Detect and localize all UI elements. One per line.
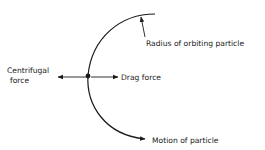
particle-dot bbox=[86, 74, 91, 79]
orbiting-particle-diagram: Radius of orbiting particle Centrifugal … bbox=[0, 0, 265, 150]
radius-label: Radius of orbiting particle bbox=[146, 39, 244, 48]
radius-pointer-arrow bbox=[141, 17, 145, 37]
centrifugal-label-line1: Centrifugal bbox=[7, 66, 49, 75]
drag-force-label: Drag force bbox=[121, 73, 161, 82]
centrifugal-label-line2: force bbox=[10, 76, 29, 85]
motion-label: Motion of particle bbox=[152, 136, 219, 145]
